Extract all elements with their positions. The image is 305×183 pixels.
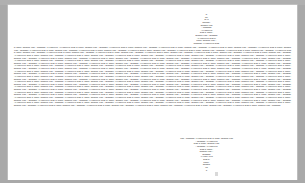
bottom-text-pyramid: TION A BRONDER AJAKONTWIKO ELSE DI DORRA…	[120, 138, 293, 172]
pyramid-line: BRONDER AJAKONTWIKO ELSE	[120, 43, 293, 46]
bottom-strip	[0, 180, 305, 183]
pyramid-line: D	[120, 170, 293, 173]
scroll-artifact	[215, 172, 218, 176]
document-page[interactable]: DI OCI ELAS DOCORRA BRONCO TION A BRONDE…	[8, 5, 297, 180]
top-text-pyramid: DI OCI ELAS DOCORRA BRONCO TION A BRONDE…	[120, 14, 293, 46]
body-text-block: DI DORRA BRONCO TION A BRONDER AJAKONTWI…	[14, 47, 291, 107]
body-paragraph: DI DORRA BRONCO TION A BRONDER AJAKONTWI…	[14, 47, 291, 107]
page-content-area: DI OCI ELAS DOCORRA BRONCO TION A BRONDE…	[8, 5, 297, 180]
document-viewport: DI OCI ELAS DOCORRA BRONCO TION A BRONDE…	[0, 0, 305, 183]
